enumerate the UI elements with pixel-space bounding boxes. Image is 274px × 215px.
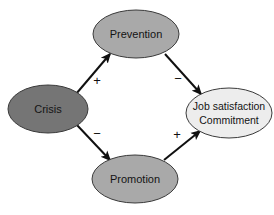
edge-promotion-to-outcome: + <box>164 127 200 160</box>
node-label: Crisis <box>34 103 62 115</box>
node-crisis[interactable]: Crisis <box>8 85 88 133</box>
node-promotion[interactable]: Promotion <box>92 155 178 203</box>
edge-crisis-to-prevention: + <box>76 54 110 94</box>
node-label-line-2: Commitment <box>199 114 259 126</box>
node-prevention[interactable]: Prevention <box>93 10 179 58</box>
edge-sign-positive: + <box>93 73 101 88</box>
edge-sign-negative: − <box>174 71 182 86</box>
edge-line <box>165 54 201 94</box>
node-outcome[interactable]: Job satisfaction Commitment <box>186 88 272 138</box>
diagram-canvas: + − − + Crisis Prevention Promotion <box>0 0 274 215</box>
path-diagram: + − − + Crisis Prevention Promotion <box>0 0 274 215</box>
node-label-line-1: Job satisfaction <box>193 100 266 112</box>
node-label: Prevention <box>110 28 163 40</box>
edge-prevention-to-outcome: − <box>165 54 201 94</box>
edge-line <box>164 131 200 160</box>
edge-sign-negative: − <box>93 126 101 141</box>
node-label: Promotion <box>110 173 160 185</box>
edge-sign-positive: + <box>173 127 181 142</box>
edge-crisis-to-promotion: − <box>76 124 110 160</box>
